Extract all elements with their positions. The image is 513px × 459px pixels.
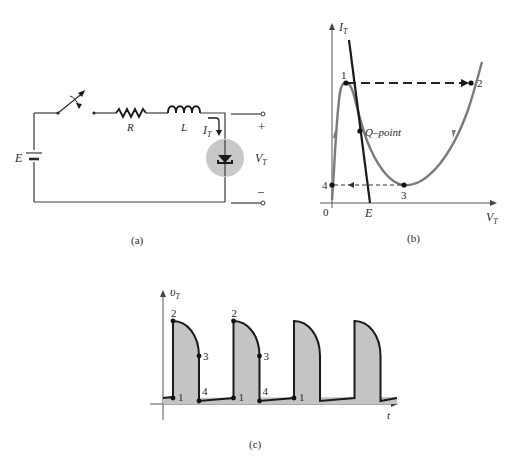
caption-a: (a): [131, 234, 144, 247]
t-axis-label: t: [387, 409, 391, 421]
pulse-1-point-4: [197, 399, 202, 404]
pulse-fill-2: [234, 321, 260, 404]
resistor-icon: [116, 109, 146, 117]
inductor-icon: [168, 106, 200, 113]
point-2-label: 2: [477, 77, 483, 89]
pulse-2-point-1-label: 1: [239, 391, 245, 403]
point-3: [401, 182, 406, 187]
pulse-1-point-1: [171, 396, 176, 401]
x-axis-label: VT: [486, 210, 498, 226]
point-1: [343, 80, 348, 85]
pulse-3-point-1: [292, 396, 297, 401]
pulse-2-point-1: [231, 396, 236, 401]
voltage-label: VT: [255, 151, 267, 167]
pulse-1-point-3-label: 3: [203, 350, 209, 362]
inductor-label: L: [180, 121, 187, 133]
vt-axis-label: υT: [170, 285, 181, 301]
point-2: [468, 80, 473, 85]
caption-b: (b): [407, 232, 420, 245]
pulse-2-point-3: [257, 354, 262, 359]
pulse-train: 123412341: [163, 307, 397, 404]
pulse-1-point-2-label: 2: [171, 307, 177, 319]
transition-arrow-icon: [461, 79, 469, 87]
voltage-waveform: υT t 123412341 (c): [150, 285, 398, 451]
tunnel-diode-figure: E R L IT: [0, 0, 513, 459]
pulse-2-point-4: [257, 399, 262, 404]
e-label: E: [364, 206, 373, 220]
pulse-1-point-4-label: 4: [202, 385, 208, 397]
point-1-label: 1: [341, 69, 347, 81]
pulse-1-point-1-label: 1: [178, 391, 184, 403]
pulse-fill-1: [173, 321, 199, 404]
point-3-label: 3: [401, 189, 407, 201]
pulse-3-point-1-label: 1: [299, 391, 305, 403]
terminal-top: [261, 112, 265, 116]
pulse-1-point-2: [171, 319, 176, 324]
pulse-2-point-2-label: 2: [232, 307, 238, 319]
pulse-2-point-2: [231, 319, 236, 324]
pulse-1-point-3: [197, 354, 202, 359]
circuit-diagram: E R L IT: [14, 90, 267, 247]
resistor-label: R: [126, 121, 134, 133]
pulse-fill-4: [355, 321, 381, 404]
point-4: [329, 182, 334, 187]
load-line: [349, 40, 370, 203]
pulse-fill-3: [294, 321, 320, 404]
plus-sign: +: [258, 119, 265, 134]
terminal-bottom: [261, 201, 265, 205]
switch-icon: [56, 90, 95, 115]
x-axis-arrow-icon: [490, 200, 497, 206]
q-point: [357, 128, 362, 133]
iv-characteristic-plot: IT VT 0 E 1 2 3 4 Q–point (b): [320, 20, 498, 245]
minus-sign: −: [257, 185, 264, 200]
vt-axis-arrow-icon: [160, 290, 166, 297]
battery-icon: [26, 153, 42, 159]
pulse-2-point-3-label: 3: [264, 350, 270, 362]
source-label: E: [14, 151, 23, 165]
transition-arrow-left-icon: [348, 182, 354, 188]
point-4-label: 4: [322, 179, 328, 191]
origin-label: 0: [323, 206, 329, 218]
caption-c: (c): [249, 438, 262, 451]
q-point-label: Q–point: [365, 126, 402, 138]
current-label: IT: [202, 123, 212, 139]
pulse-2-point-4-label: 4: [263, 385, 269, 397]
y-axis-arrow-icon: [329, 23, 335, 30]
y-axis-label: IT: [338, 20, 348, 36]
